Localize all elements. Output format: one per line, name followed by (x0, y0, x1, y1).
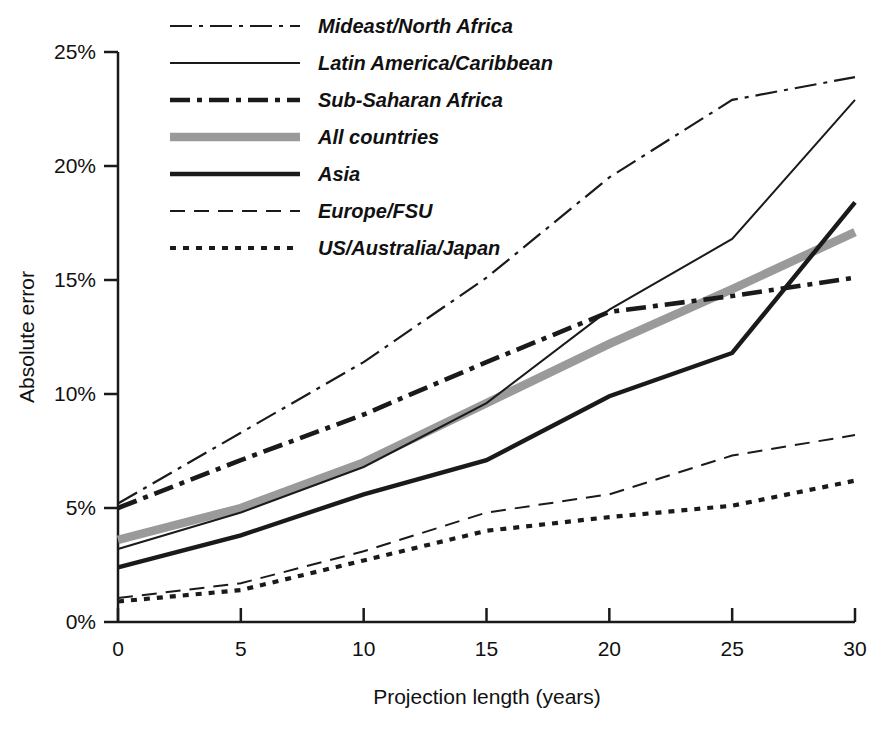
x-tick-label: 10 (352, 637, 375, 660)
x-tick-label: 0 (112, 637, 124, 660)
series-line (118, 481, 855, 602)
series-line (118, 278, 855, 508)
y-axis-title: Absolute error (15, 271, 38, 403)
y-tick-label: 25% (54, 40, 96, 63)
x-tick-label: 15 (475, 637, 498, 660)
x-tick-label: 5 (235, 637, 247, 660)
y-axis-tick-marks (104, 52, 118, 622)
y-tick-label: 10% (54, 382, 96, 405)
x-axis-tick-marks (118, 608, 855, 622)
chart-figure: 0%5%10%15%20%25% 051015202530 Mideast/No… (0, 0, 891, 734)
y-tick-label: 15% (54, 268, 96, 291)
y-axis-tick-labels: 0%5%10%15%20%25% (54, 40, 96, 633)
y-tick-label: 5% (66, 496, 96, 519)
x-tick-label: 20 (598, 637, 621, 660)
legend-label: Mideast/North Africa (318, 15, 513, 37)
legend-label: Latin America/Caribbean (318, 52, 553, 74)
legend-label: Asia (317, 163, 360, 185)
line-chart-svg: 0%5%10%15%20%25% 051015202530 Mideast/No… (0, 0, 891, 734)
y-tick-label: 20% (54, 154, 96, 177)
chart-legend: Mideast/North AfricaLatin America/Caribb… (170, 15, 553, 259)
x-tick-label: 30 (843, 637, 866, 660)
legend-label: Europe/FSU (318, 200, 433, 222)
x-axis-title: Projection length (years) (373, 685, 601, 708)
x-tick-label: 25 (720, 637, 743, 660)
legend-label: Sub-Saharan Africa (318, 89, 503, 111)
data-series-group (118, 77, 855, 601)
legend-label: All countries (317, 126, 439, 148)
series-line (118, 100, 855, 549)
legend-label: US/Australia/Japan (318, 237, 500, 259)
x-axis-tick-labels: 051015202530 (112, 637, 867, 660)
y-tick-label: 0% (66, 610, 96, 633)
